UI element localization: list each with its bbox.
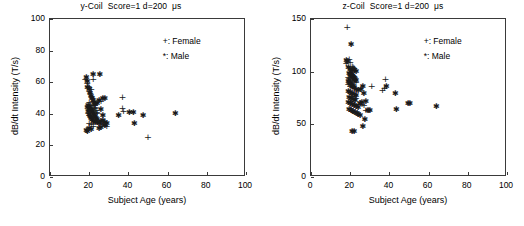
x-tick-label: 100	[499, 180, 513, 190]
panel-title: y-Coil Score=1 d=200 μs	[0, 1, 262, 11]
plot-area: ++++++++++++++++++++++++++++++++++++++++…	[50, 19, 244, 175]
legend-entry: +: Female	[424, 36, 462, 46]
x-tick-label: 100	[238, 180, 252, 190]
x-tick	[168, 172, 169, 175]
figure-root: y-Coil Score=1 d=200 μs ++++++++++++++++…	[0, 0, 524, 226]
y-tick	[311, 177, 314, 178]
legend-entry: +: Female	[163, 36, 201, 46]
x-tick-label: 60	[162, 180, 171, 190]
x-tick	[429, 172, 430, 175]
y-tick	[311, 124, 314, 125]
y-tick	[50, 177, 53, 178]
panel-title: z-Coil Score=1 d=200 μs	[262, 1, 524, 11]
x-tick	[246, 172, 247, 175]
legend-entry: *: Male	[424, 51, 450, 61]
x-tick	[507, 172, 508, 175]
y-tick-label: 100	[19, 13, 45, 23]
plot-area: ++++++++++++++++++++++++++++++++++++++++…	[311, 19, 505, 175]
plot-axes: ++++++++++++++++++++++++++++++++++++++++…	[49, 18, 245, 176]
y-tick	[50, 114, 53, 115]
x-axis-title: Subject Age (years)	[310, 195, 506, 205]
x-tick-label: 80	[201, 180, 210, 190]
x-tick	[389, 172, 390, 175]
x-tick	[207, 172, 208, 175]
y-axis-title: dB/dt Intensity (T/s)	[10, 17, 20, 175]
x-tick	[311, 172, 312, 175]
y-tick-label: 0	[280, 171, 306, 181]
y-tick-label: 100	[280, 66, 306, 76]
y-tick	[50, 19, 53, 20]
x-tick	[468, 172, 469, 175]
x-tick	[128, 172, 129, 175]
y-tick	[50, 82, 53, 83]
y-tick-label: 150	[280, 13, 306, 23]
y-axis-title: dB/dt Intensity (T/s)	[271, 17, 281, 175]
y-tick	[50, 51, 53, 52]
x-tick-label: 0	[308, 180, 313, 190]
y-tick	[311, 72, 314, 73]
panel-z-coil: z-Coil Score=1 d=200 μs ++++++++++++++++…	[262, 0, 524, 226]
legend-entry: *: Male	[163, 51, 189, 61]
y-tick-label: 50	[280, 118, 306, 128]
panel-y-coil: y-Coil Score=1 d=200 μs ++++++++++++++++…	[0, 0, 262, 226]
y-tick-label: 60	[19, 76, 45, 86]
x-tick-label: 40	[123, 180, 132, 190]
y-tick-label: 0	[19, 171, 45, 181]
x-axis-title: Subject Age (years)	[49, 195, 245, 205]
x-tick-label: 80	[462, 180, 471, 190]
x-tick-label: 60	[423, 180, 432, 190]
x-tick	[350, 172, 351, 175]
x-tick	[50, 172, 51, 175]
y-tick-label: 80	[19, 45, 45, 55]
y-tick	[311, 19, 314, 20]
x-tick-label: 40	[384, 180, 393, 190]
y-tick-label: 40	[19, 108, 45, 118]
x-tick-label: 0	[47, 180, 52, 190]
plot-axes: ++++++++++++++++++++++++++++++++++++++++…	[310, 18, 506, 176]
x-tick-label: 20	[344, 180, 353, 190]
x-tick-label: 20	[83, 180, 92, 190]
y-tick	[50, 145, 53, 146]
x-tick	[89, 172, 90, 175]
y-tick-label: 20	[19, 139, 45, 149]
